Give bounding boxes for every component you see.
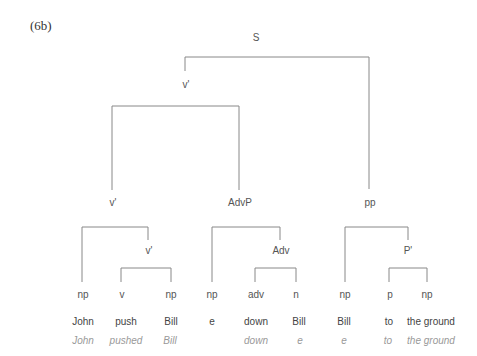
- leaf-word: Bill: [337, 316, 350, 327]
- leaf-cat: v: [120, 289, 125, 300]
- leaf-gloss: John: [72, 335, 94, 346]
- node-v-bar-mid: v': [110, 197, 117, 208]
- leaf-gloss: e: [297, 335, 303, 346]
- leaf-word: John: [72, 316, 94, 327]
- leaf-gloss: down: [244, 335, 268, 346]
- leaf-gloss: Bill: [163, 335, 176, 346]
- node-p-bar: P': [404, 245, 413, 256]
- leaf-cat: np: [421, 289, 432, 300]
- leaf-cat: np: [339, 289, 350, 300]
- leaf-gloss: to: [384, 335, 392, 346]
- leaf-cat: n: [293, 289, 299, 300]
- node-advp: AdvP: [228, 197, 252, 208]
- leaf-word: Bill: [164, 316, 177, 327]
- leaf-word: down: [244, 316, 268, 327]
- leaf-cat: adv: [248, 289, 264, 300]
- node-v-bar-low: v': [146, 245, 153, 256]
- node-s: S: [253, 32, 260, 43]
- leaf-gloss: pushed: [110, 335, 143, 346]
- node-v-bar-top: v': [183, 79, 190, 90]
- leaf-word: to: [385, 316, 393, 327]
- leaf-word: e: [209, 316, 215, 327]
- tree-branches: [0, 0, 477, 356]
- leaf-cat: np: [165, 289, 176, 300]
- leaf-word: the ground: [407, 316, 455, 327]
- leaf-word: Bill: [292, 316, 305, 327]
- leaf-gloss: e: [341, 335, 347, 346]
- leaf-cat: np: [206, 289, 217, 300]
- leaf-gloss: the ground: [407, 335, 455, 346]
- node-pp: pp: [364, 197, 375, 208]
- leaf-cat: p: [387, 289, 393, 300]
- leaf-cat: np: [77, 289, 88, 300]
- node-adv: Adv: [272, 245, 289, 256]
- leaf-word: push: [115, 316, 137, 327]
